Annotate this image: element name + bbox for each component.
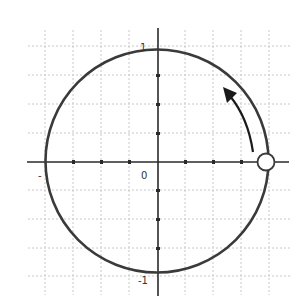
unit-circle bbox=[46, 50, 269, 273]
axes bbox=[27, 28, 289, 296]
unit-circle-diagram: 1 -1 - 0 bbox=[0, 0, 303, 306]
label-top: 1 bbox=[140, 42, 146, 53]
label-origin: 0 bbox=[141, 170, 147, 181]
start-point-marker bbox=[258, 154, 275, 171]
label-left: - bbox=[38, 170, 42, 181]
label-bottom: -1 bbox=[138, 275, 148, 286]
